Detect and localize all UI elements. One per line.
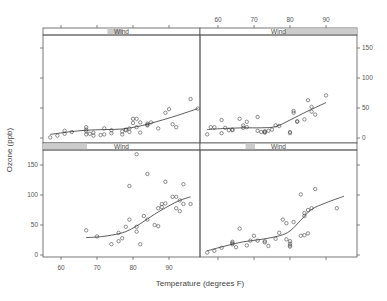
data-point [110,243,113,246]
data-point [157,207,160,210]
y-axis-title: Ozone (ppb) [5,127,14,172]
data-point [142,214,145,217]
data-point [260,130,263,133]
data-point [117,240,120,243]
data-point [285,222,288,225]
data-point [128,130,131,133]
data-point [182,202,185,205]
data-point [95,235,98,238]
data-point [135,230,138,233]
data-point [167,108,170,111]
x-tick-label-top: 90 [322,16,330,23]
data-point [157,127,160,130]
strip-shade-indicator [285,29,357,35]
data-point [310,105,313,108]
data-point [85,126,88,129]
data-point [256,129,259,132]
y-tick-label-right: 0 [362,134,366,141]
y-tick-label: 50 [31,221,39,228]
y-tick-label-right: 50 [362,104,370,111]
data-point [324,94,327,97]
strip-label: Wind [271,143,286,150]
strip-shade-indicator [43,144,87,150]
data-point [281,218,284,221]
data-point [189,97,192,100]
data-point [292,220,295,223]
data-point [303,118,306,121]
panel-bottom-right: Wind [200,143,357,257]
data-point [238,117,241,120]
x-tick-label-top: 70 [250,16,258,23]
panel-content [49,97,200,139]
data-point [135,117,138,120]
data-point [128,218,131,221]
data-point [299,193,302,196]
data-point [153,223,156,226]
data-point [267,129,270,132]
data-point [274,237,277,240]
panel-content [206,94,328,136]
x-axis-title: Temperature (degrees F) [156,279,245,288]
data-point [220,118,223,121]
data-point [224,126,227,129]
data-point [245,244,248,247]
data-point [135,153,138,156]
loess-smooth-line [207,196,344,251]
data-point [285,238,288,241]
data-point [234,246,237,249]
data-point [314,187,317,190]
x-tick-label: 80 [129,264,137,271]
data-point [245,126,248,129]
data-point [49,136,52,139]
data-point [139,243,142,246]
y-tick-label: 100 [27,191,38,198]
data-point [164,180,167,183]
data-point [206,133,209,136]
data-point [157,225,160,228]
data-point [303,234,306,237]
data-point [306,232,309,235]
data-point [139,121,142,124]
data-point [206,251,209,254]
data-point [146,172,149,175]
loess-smooth-line [207,103,326,130]
panel-content [85,153,193,246]
panel-top-right: Wind [200,28,357,143]
data-point [171,195,174,198]
data-point [213,249,216,252]
data-point [270,128,273,131]
y-tick-label: 0 [34,251,38,258]
strip-shade-indicator [246,144,255,150]
data-point [252,234,255,237]
data-point [310,110,313,113]
data-point [238,227,241,230]
data-point [245,120,248,123]
x-tick-label: 90 [165,264,173,271]
x-tick-label-top: 60 [214,16,222,23]
data-point [103,133,106,136]
data-point [209,126,212,129]
data-point [124,225,127,228]
panels-layer: WindWindWindWind [43,28,357,257]
strip-label: Wind [114,28,129,35]
data-point [220,132,223,135]
data-point [256,115,259,118]
data-point [131,117,134,120]
data-point [278,231,281,234]
y-tick-label: 150 [27,161,38,168]
data-point [171,123,174,126]
panel-frame [43,35,200,143]
data-point [121,237,124,240]
data-point [299,234,302,237]
strip-label: Wind [271,28,286,35]
data-point [56,134,59,137]
data-point [213,126,216,129]
panel-top-left: Wind [43,28,200,143]
x-tick-label: 70 [93,264,101,271]
data-point [314,113,317,116]
data-point [175,126,178,129]
data-point [182,183,185,186]
strip-label: Wind [114,143,129,150]
y-tick-label-right: 100 [362,74,373,81]
data-point [335,207,338,210]
